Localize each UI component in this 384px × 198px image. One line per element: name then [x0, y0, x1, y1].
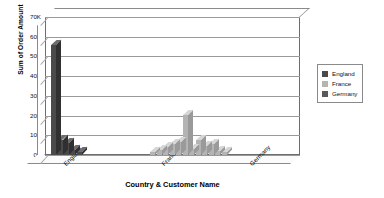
- bar: [222, 152, 227, 155]
- bar: [150, 152, 155, 155]
- legend-item: England: [322, 69, 357, 78]
- legend-swatch-icon: [322, 91, 328, 97]
- legend-item-label: Germany: [332, 90, 357, 97]
- plot-area: [45, 17, 300, 155]
- legend-swatch-icon: [322, 71, 328, 77]
- legend-swatch-icon: [322, 81, 328, 87]
- bar-side: [188, 109, 193, 155]
- bar-cap: [285, 22, 300, 27]
- x-axis-title: Country & Customer Name: [45, 180, 300, 189]
- bar: [285, 27, 295, 155]
- legend-item: Germany: [322, 89, 357, 98]
- legend-item-label: France: [332, 80, 351, 87]
- plot-depth-top: [45, 8, 310, 17]
- bar-side: [56, 39, 61, 155]
- y-axis-tick-label: 70K: [15, 14, 41, 20]
- bar-face: [285, 27, 295, 155]
- chart-container: Sum of Order Amount 0K10K20K30K40K50K60K…: [0, 0, 384, 198]
- bar: [51, 45, 56, 155]
- bar-side: [295, 21, 300, 155]
- legend-item: France: [322, 79, 357, 88]
- bar-series-group: [45, 17, 300, 155]
- bar: [77, 152, 82, 155]
- chart-legend: EnglandFranceGermany: [317, 64, 363, 103]
- legend-item-label: England: [332, 70, 355, 77]
